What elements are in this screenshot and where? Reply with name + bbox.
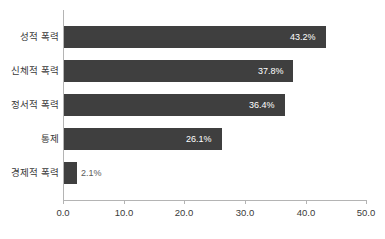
x-axis-line: [63, 200, 367, 201]
x-axis-tick: [63, 200, 64, 204]
x-axis-tick-label: 10.0: [115, 207, 134, 218]
x-axis-tick: [366, 200, 367, 204]
plot-area: 성적 폭력 43.2% 신체적 폭력 37.8% 정서적 폭력 36.4% 통제…: [0, 0, 385, 200]
x-axis-tick: [306, 200, 307, 204]
x-axis-tick-label: 40.0: [297, 207, 316, 218]
bar-value-label: 36.4%: [249, 94, 275, 116]
bar-value-label: 43.2%: [290, 26, 316, 48]
bar: [64, 162, 77, 184]
bar-row: 신체적 폭력 37.8%: [0, 60, 385, 82]
category-label: 경제적 폭력: [11, 162, 59, 184]
bar-row: 통제 26.1%: [0, 128, 385, 150]
category-label: 성적 폭력: [20, 26, 59, 48]
x-axis-tick-label: 30.0: [236, 207, 255, 218]
bar-chart: 성적 폭력 43.2% 신체적 폭력 37.8% 정서적 폭력 36.4% 통제…: [0, 0, 385, 239]
x-axis-tick: [245, 200, 246, 204]
category-label: 통제: [41, 128, 59, 150]
x-axis-tick-label: 20.0: [175, 207, 194, 218]
x-axis-tick-label: 50.0: [357, 207, 376, 218]
x-axis-tick-label: 0.0: [56, 207, 69, 218]
bar-row: 성적 폭력 43.2%: [0, 26, 385, 48]
category-label: 신체적 폭력: [11, 60, 59, 82]
bar-value-label: 2.1%: [81, 162, 102, 184]
y-axis-line: [63, 10, 64, 200]
bar-row: 경제적 폭력 2.1%: [0, 162, 385, 184]
bar-value-label: 26.1%: [186, 128, 212, 150]
x-axis-tick: [124, 200, 125, 204]
bar-value-label: 37.8%: [258, 60, 284, 82]
bar: [64, 26, 326, 48]
category-label: 정서적 폭력: [11, 94, 59, 116]
bar-row: 정서적 폭력 36.4%: [0, 94, 385, 116]
x-axis-tick: [184, 200, 185, 204]
